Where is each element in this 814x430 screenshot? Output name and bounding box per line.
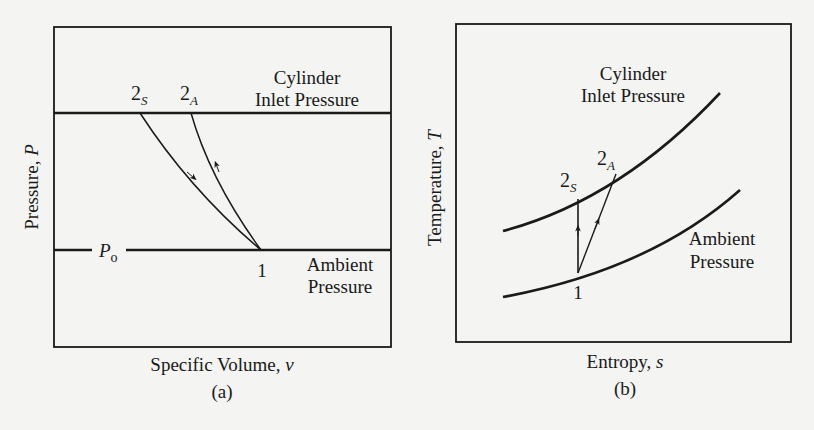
- actual-compression-path-a: [191, 113, 261, 250]
- diagram-canvas: 2S 2A Cylinder Inlet Pressure Po 1 Ambie…: [0, 0, 814, 430]
- point-2s-label-a: 2S: [131, 82, 148, 108]
- cylinder-label-b: Cylinder: [600, 63, 667, 84]
- panel-b-ts-diagram: Cylinder Inlet Pressure 2A 2S 1 Ambient …: [424, 24, 791, 400]
- point-2a-label-a: 2A: [180, 82, 198, 108]
- y-axis-label-a: Pressure, P: [21, 144, 42, 230]
- inlet-pressure-label-a: Inlet Pressure: [255, 89, 359, 110]
- ambient-label-a: Ambient: [307, 254, 374, 275]
- arrowhead-icon: [216, 164, 219, 172]
- y-axis-label-b: Temperature, T: [424, 129, 445, 246]
- arrowhead-icon: [595, 221, 598, 229]
- panel-a-pv-diagram: 2S 2A Cylinder Inlet Pressure Po 1 Ambie…: [21, 27, 391, 403]
- point-2s-label-b: 2S: [560, 169, 577, 195]
- pressure-label-b: Pressure: [690, 251, 754, 272]
- ambient-label-b: Ambient: [689, 228, 756, 249]
- panel-a-frame: [54, 27, 391, 347]
- caption-a: (a): [211, 381, 232, 403]
- point-1-label-b: 1: [573, 282, 583, 303]
- isentropic-compression-path-a: [140, 113, 261, 250]
- inlet-pressure-label-b: Inlet Pressure: [581, 85, 685, 106]
- point-1-label-a: 1: [257, 260, 267, 281]
- point-2a-label-b: 2A: [597, 147, 615, 173]
- pressure-label-a: Pressure: [308, 276, 372, 297]
- x-axis-label-a: Specific Volume, v: [150, 354, 294, 375]
- p0-label: Po: [98, 240, 118, 265]
- caption-b: (b): [614, 378, 636, 400]
- x-axis-label-b: Entropy, s: [587, 351, 664, 372]
- cylinder-label-a: Cylinder: [274, 67, 341, 88]
